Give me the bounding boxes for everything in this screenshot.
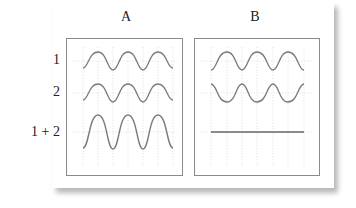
row-label-sum: 1 + 2 (0, 124, 60, 140)
row-label-1: 1 (0, 52, 60, 68)
grid-lines (73, 47, 177, 167)
column-header-a: A (116, 9, 136, 25)
panel-a (66, 38, 183, 176)
column-header-b: B (245, 9, 265, 25)
panel-b-plot (195, 39, 319, 175)
panel-b (194, 38, 320, 176)
row-label-2: 2 (0, 84, 60, 100)
grid-lines (201, 47, 313, 167)
panel-a-plot (67, 39, 182, 175)
